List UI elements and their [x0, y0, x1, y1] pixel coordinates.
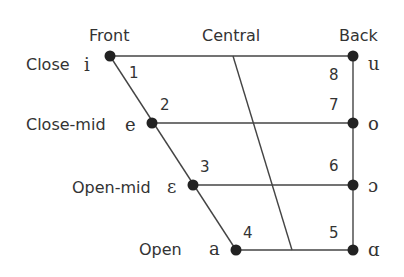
vowel-dot-script-a	[348, 245, 359, 256]
central-line	[233, 56, 292, 250]
row-label-open: Open	[139, 240, 182, 259]
header-central: Central	[202, 26, 260, 45]
vowel-dot-a	[231, 245, 242, 256]
vowel-number-1: 1	[129, 64, 139, 82]
row-label-close-mid: Close-mid	[26, 115, 106, 134]
vowel-number-2: 2	[160, 96, 170, 114]
vowel-symbol-e: e	[125, 114, 136, 135]
header-front: Front	[89, 26, 129, 45]
vowel-dot-open-o	[348, 180, 359, 191]
vowel-chart: Front Central Back Close Close-mid Open-…	[0, 0, 404, 277]
vowel-symbol-i: i	[84, 54, 90, 75]
vowel-symbol-a: a	[209, 238, 220, 259]
vowel-symbol-u: u	[368, 53, 380, 74]
vowel-symbol-open-o: ɔ	[368, 175, 378, 196]
header-back: Back	[339, 26, 379, 45]
front-edge	[110, 56, 236, 250]
vowel-number-7: 7	[329, 96, 339, 114]
row-label-open-mid: Open-mid	[72, 178, 151, 197]
vowel-dot-epsilon	[188, 180, 199, 191]
row-label-close: Close	[26, 55, 70, 74]
vowel-dot-e	[147, 118, 158, 129]
vowel-number-6: 6	[329, 157, 339, 175]
vowel-dot-i	[105, 51, 116, 62]
vowel-number-5: 5	[329, 224, 339, 242]
vowel-symbol-o: o	[368, 113, 379, 134]
vowel-symbol-epsilon: ε	[167, 176, 176, 197]
vowel-number-4: 4	[243, 224, 253, 242]
vowel-number-8: 8	[329, 66, 339, 84]
vowel-number-3: 3	[200, 158, 210, 176]
vowel-dot-o	[348, 118, 359, 129]
vowel-symbol-script-a: ɑ	[368, 239, 380, 260]
vowel-dot-u	[348, 51, 359, 62]
